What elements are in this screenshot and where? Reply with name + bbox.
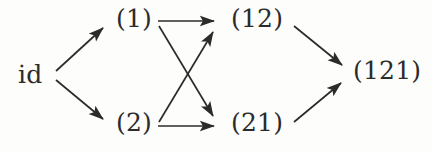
node-word-12: (12) bbox=[231, 6, 283, 31]
edge-id-to-1 bbox=[56, 28, 103, 71]
edge-21-to-121 bbox=[294, 83, 341, 122]
node-word-121: (121) bbox=[353, 58, 421, 83]
node-word-1: (1) bbox=[116, 6, 152, 31]
node-word-2: (2) bbox=[116, 110, 152, 135]
edge-id-to-2 bbox=[56, 80, 103, 119]
node-word-21: (21) bbox=[231, 110, 283, 135]
edge-2-to-12 bbox=[159, 32, 213, 122]
edge-12-to-121 bbox=[294, 26, 342, 65]
diagram-canvas: id (1) (2) (12) (21) (121) bbox=[0, 0, 432, 151]
node-id: id bbox=[18, 62, 42, 87]
edge-1-to-21 bbox=[159, 26, 213, 116]
